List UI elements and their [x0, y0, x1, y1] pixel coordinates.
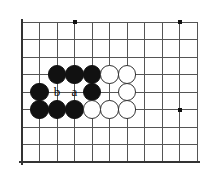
black-stone [65, 65, 83, 83]
black-stone [48, 65, 66, 83]
white-stone [100, 65, 118, 83]
point-label-a: a [63, 85, 87, 98]
black-stone [65, 100, 83, 118]
star-point [178, 108, 182, 112]
white-stone [100, 100, 118, 118]
go-board-diagram: ba [0, 0, 215, 187]
white-stone [118, 65, 136, 83]
black-stone [83, 65, 101, 83]
white-stone [118, 100, 136, 118]
black-stone [48, 100, 66, 118]
star-point [178, 20, 182, 24]
black-stone [30, 100, 48, 118]
star-point [73, 20, 77, 24]
white-stone [83, 100, 101, 118]
